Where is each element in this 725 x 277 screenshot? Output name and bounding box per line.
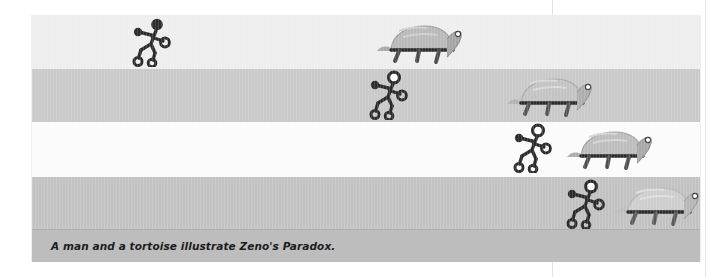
- figure-caption-text: A man and a tortoise illustrate Zeno's P…: [51, 240, 335, 252]
- sequence-band-3: [32, 177, 700, 229]
- running-man-icon: [129, 17, 173, 67]
- sequence-band-2: [32, 122, 700, 177]
- zeno-paradox-figure: A man and a tortoise illustrate Zeno's P…: [32, 16, 700, 261]
- running-man-icon: [510, 123, 554, 173]
- running-man-icon: [563, 179, 607, 229]
- tortoise-icon: [373, 21, 469, 65]
- tortoise-icon: [563, 127, 659, 171]
- page-rule-right: [705, 0, 706, 277]
- sequence-band-1: [32, 69, 700, 122]
- tortoise-icon: [610, 183, 700, 227]
- sequence-band-0: [32, 16, 700, 69]
- running-man-icon: [366, 70, 410, 120]
- tortoise-icon: [503, 74, 599, 118]
- figure-caption-bar: A man and a tortoise illustrate Zeno's P…: [32, 229, 700, 262]
